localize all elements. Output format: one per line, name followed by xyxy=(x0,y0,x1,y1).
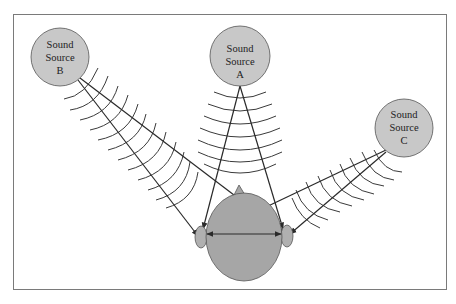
sound-localization-diagram: Sound Source B Sound Source A Sound Sour… xyxy=(0,0,456,304)
head-circle xyxy=(206,193,282,281)
source-c-label-1: Sound xyxy=(391,109,419,120)
source-b-label-3: B xyxy=(56,65,63,76)
source-a-label-2: Source xyxy=(225,56,254,67)
source-c-label-3: C xyxy=(400,135,407,146)
sound-source-c: Sound Source C xyxy=(375,99,433,157)
source-a-label-1: Sound xyxy=(227,43,255,54)
right-ear xyxy=(281,225,293,247)
left-ear xyxy=(195,226,207,248)
diagram-canvas: Sound Source B Sound Source A Sound Sour… xyxy=(0,0,456,304)
source-b-label-2: Source xyxy=(45,52,74,63)
source-c-label-2: Source xyxy=(389,122,418,133)
sound-source-a: Sound Source A xyxy=(210,26,270,86)
source-b-label-1: Sound xyxy=(47,39,75,50)
sound-source-b: Sound Source B xyxy=(31,28,89,86)
source-a-label-3: A xyxy=(236,69,244,80)
